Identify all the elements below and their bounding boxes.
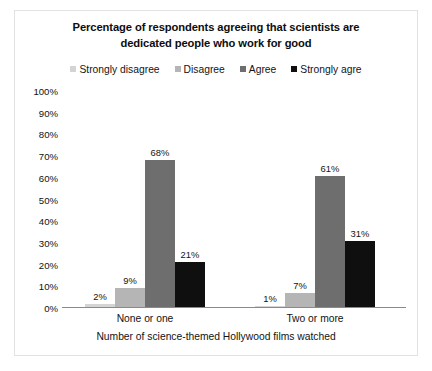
y-axis: 100%90%80%70%60%50%40%30%20%10%0% [22, 91, 58, 308]
bar-value-label: 7% [293, 280, 307, 291]
legend-swatch-icon [291, 66, 297, 72]
legend-swatch-icon [70, 66, 76, 72]
legend-item[interactable]: Agree [240, 64, 276, 75]
bar-slot: 68% [145, 91, 175, 308]
bar-slot: 61% [315, 91, 345, 308]
bar-slot: 9% [115, 91, 145, 308]
legend-item[interactable]: Strongly disagree [70, 64, 159, 75]
bar-slot: 21% [175, 91, 205, 308]
bar-value-label: 9% [123, 275, 137, 286]
bar[interactable] [285, 293, 315, 308]
x-axis-category-label: None or one [85, 313, 205, 324]
chart-title-line-1: Percentage of respondents agreeing that … [28, 20, 404, 36]
chart-title: Percentage of respondents agreeing that … [28, 20, 404, 51]
bar[interactable] [345, 241, 375, 308]
bar[interactable] [115, 288, 145, 308]
y-axis-tick-label: 90% [24, 107, 58, 118]
bar-slot: 2% [85, 91, 115, 308]
bar-slot: 7% [285, 91, 315, 308]
y-axis-tick-label: 100% [24, 86, 58, 97]
bar-value-label: 31% [351, 228, 370, 239]
chart-title-line-2: dedicated people who work for good [28, 36, 404, 52]
bar-value-label: 1% [263, 293, 277, 304]
y-axis-tick-label: 10% [24, 281, 58, 292]
y-axis-tick-label: 80% [24, 129, 58, 140]
plot-area: 2%9%68%21%1%7%61%31% [62, 91, 406, 308]
bar[interactable] [175, 262, 205, 308]
y-axis-tick-label: 70% [24, 151, 58, 162]
bar-value-label: 61% [321, 163, 340, 174]
bar[interactable] [315, 176, 345, 308]
y-axis-tick-label: 50% [24, 194, 58, 205]
chart-screenshot: Percentage of respondents agreeing that … [0, 0, 432, 371]
legend-swatch-icon [240, 66, 246, 72]
legend-item[interactable]: Disagree [175, 64, 225, 75]
y-axis-tick-label: 20% [24, 259, 58, 270]
legend-label: Disagree [184, 64, 225, 75]
y-axis-tick-label: 40% [24, 216, 58, 227]
bar-slot: 1% [255, 91, 285, 308]
bar-value-label: 2% [93, 291, 107, 302]
y-axis-tick-label: 30% [24, 237, 58, 248]
legend-label: Strongly agre [300, 64, 361, 75]
bar[interactable] [145, 160, 175, 308]
legend-label: Strongly disagree [79, 64, 159, 75]
bar-group: 2%9%68%21% [85, 91, 205, 308]
bar-value-label: 21% [181, 249, 200, 260]
bar-group: 1%7%61%31% [255, 91, 375, 308]
x-axis-title: Number of science-themed Hollywood films… [28, 331, 404, 342]
legend-item[interactable]: Strongly agre [291, 64, 361, 75]
bar-slot: 31% [345, 91, 375, 308]
x-axis-category-label: Two or more [255, 313, 375, 324]
y-axis-tick-label: 60% [24, 172, 58, 183]
y-axis-tick-label: 0% [24, 303, 58, 314]
x-axis-line [62, 307, 406, 308]
legend-label: Agree [249, 64, 276, 75]
bar-value-label: 68% [151, 147, 170, 158]
chart-legend: Strongly disagreeDisagreeAgreeStrongly a… [28, 64, 404, 75]
legend-swatch-icon [175, 66, 181, 72]
